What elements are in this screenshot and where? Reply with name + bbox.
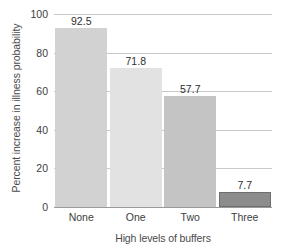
bar: 71.8: [110, 68, 162, 207]
y-tick-label: 0: [22, 202, 48, 212]
bar-value-label: 7.7: [237, 180, 252, 191]
y-tick-label: 20: [22, 163, 48, 173]
bar: 7.7: [219, 192, 271, 207]
y-axis-title: Percent increase in illness probability: [9, 8, 23, 208]
bar: 92.5: [55, 28, 107, 207]
bar-value-label: 92.5: [71, 16, 91, 27]
x-axis-title: High levels of buffers: [54, 232, 272, 245]
x-tick-label: Two: [164, 211, 216, 223]
plot-area: 92.571.857.77.7: [54, 14, 272, 207]
y-tick-label: 80: [22, 48, 48, 58]
y-tick-label: 60: [22, 86, 48, 96]
bar-value-label: 71.8: [126, 56, 146, 67]
x-tick-label: One: [110, 211, 162, 223]
x-tick-label: Three: [219, 211, 271, 223]
bar-chart: Percent increase in illness probability …: [0, 0, 284, 252]
axis-baseline: [54, 207, 272, 208]
bar-value-label: 57.7: [180, 84, 200, 95]
x-tick-label: None: [55, 211, 107, 223]
bar: 57.7: [164, 96, 216, 207]
y-tick-label: 100: [22, 9, 48, 19]
y-tick-label: 40: [22, 125, 48, 135]
